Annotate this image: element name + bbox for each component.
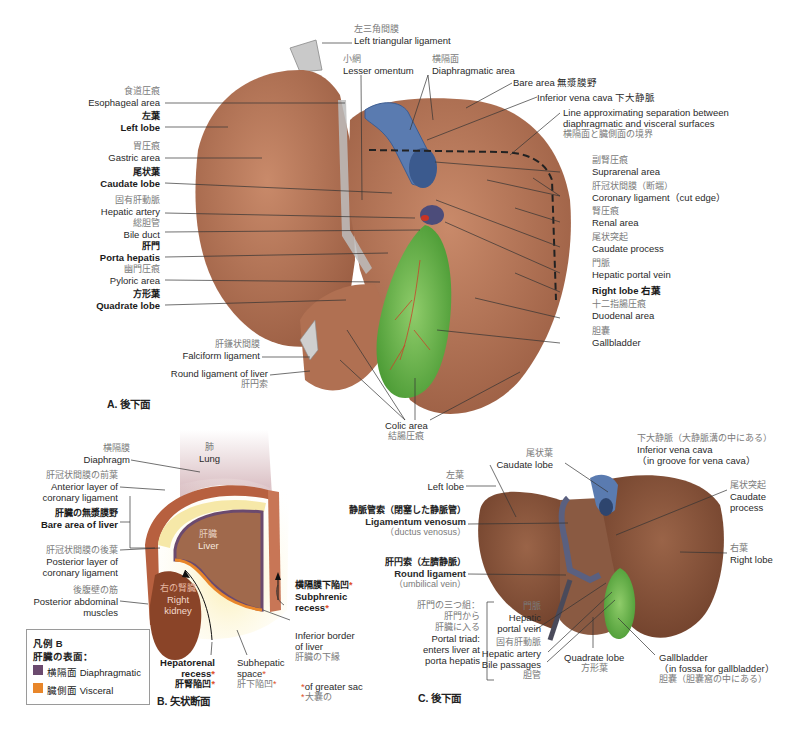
- label-c-hepatic-artery: 固有肝動脈 Hepatic artery: [482, 637, 541, 659]
- label-renal-area: 腎圧痕 Renal area: [592, 206, 638, 228]
- label-c-round-ligament: 肝円索（左臍静脈） Round ligament （umbilical vein…: [385, 557, 466, 590]
- label-gastric-area: 胃圧痕 Gastric area: [108, 141, 160, 163]
- caption-panel-a: A. 後下面: [107, 396, 150, 411]
- label-liver: 肝臓 Liver: [198, 529, 219, 551]
- label-duodenal-area: 十二指腸圧痕 Duodenal area: [592, 299, 654, 321]
- label-c-hepatic-portal-vein: 門脈 Hepatic portal vein: [497, 601, 541, 634]
- label-gallbladder: 胆嚢 Gallbladder: [592, 326, 641, 348]
- label-diaphragm: 横隔膜 Diaphragm: [84, 443, 130, 465]
- label-anterior-layer: 肝冠状間膜の前葉 Anterior layer of coronary liga…: [42, 470, 118, 503]
- liver-anatomy-figure: 左三角間膜 Left triangular ligament 小網 Lesser…: [0, 0, 798, 738]
- label-diaphragmatic-area: 横隔面 Diaphragmatic area: [432, 54, 515, 76]
- label-left-lobe: 左葉 Left lobe: [120, 111, 160, 133]
- label-c-inferior-vena-cava: 下大静脈（大静脈溝の中にある） Inferior vena cava （in g…: [637, 433, 772, 466]
- caption-panel-c: C. 後下面: [418, 690, 461, 705]
- label-colic-area: Colic area 結腸圧痕: [385, 420, 428, 442]
- legend-subtitle: 肝臓の表面：: [33, 649, 93, 663]
- label-hepatic-artery: 固有肝動脈 Hepatic artery: [101, 195, 160, 217]
- label-posterior-layer: 肝冠状間膜の後葉 Posterior layer of coronary lig…: [42, 545, 118, 578]
- label-left-triangular-ligament: 左三角間膜 Left triangular ligament: [354, 24, 451, 46]
- label-inferior-vena-cava: Inferior vena cava 下大静脈: [537, 92, 655, 103]
- label-caudate-process: 尾状突起 Caudate process: [592, 232, 664, 254]
- label-c-gallbladder: Gallbladder （in fossa for gallbladder） 胆…: [659, 652, 775, 685]
- label-c-caudate-process: 尾状突起 Caudate process: [730, 480, 766, 513]
- label-bile-duct: 総胆管 Bile duct: [124, 218, 160, 240]
- legend-item-diaphragmatic: 横隔面 Diaphragmatic: [47, 665, 141, 679]
- legend-swatch-visceral: [33, 683, 43, 693]
- label-esophageal-area: 食道圧痕 Esophageal area: [88, 86, 160, 108]
- label-quadrate-lobe: 方形葉 Quadrate lobe: [96, 289, 160, 311]
- legend-swatch-diaphragmatic: [33, 665, 43, 675]
- label-pyloric-area: 幽門圧痕 Pyloric area: [110, 264, 160, 286]
- label-c-caudate-lobe: 尾状葉 Caudate lobe: [496, 448, 553, 470]
- label-c-left-lobe: 左葉 Left lobe: [428, 470, 464, 492]
- legend-item-visceral: 臓側面 Visceral: [47, 683, 113, 697]
- label-hepatorenal-recess: Hepatorenal recess* 肝腎陥凹*: [160, 657, 215, 690]
- label-c-bile-passages: Bile passages 胆管: [482, 659, 541, 681]
- label-coronary-ligament: 肝冠状間膜（断端） Coronary ligament（cut edge）: [592, 181, 726, 203]
- label-posterior-abdominal-muscles: 後腹壁の筋 Posterior abdominal muscles: [34, 585, 119, 618]
- label-right-lobe: Right lobe 右葉: [592, 285, 661, 296]
- legend-b: 凡例 B 肝臓の表面： 横隔面 Diaphragmatic 臓側面 Viscer…: [26, 629, 150, 705]
- label-caudate-lobe: 尾状葉 Caudate lobe: [100, 167, 160, 189]
- panel-a-liver: [165, 40, 571, 420]
- label-round-ligament-of-liver: Round ligament of liver 肝円索: [171, 368, 268, 390]
- label-star-note: *of greater sac *大嚢の: [301, 681, 363, 703]
- label-suprarenal-area: 副腎圧痕 Suprarenal area: [592, 155, 660, 177]
- label-c-quadrate-lobe: Quadrate lobe 方形葉: [564, 652, 624, 674]
- label-lung: 肺 Lung: [199, 442, 220, 464]
- label-right-kidney: 右の腎臓 Right kidney: [160, 583, 196, 616]
- label-c-right-lobe: 右葉 Right lobe: [730, 543, 773, 565]
- label-porta-hepatis: 肝門 Porta hepatis: [100, 241, 160, 263]
- label-c-portal-triad: 肝門の三つ組： 肝門から 肝臓に入る Portal triad: enters …: [417, 600, 480, 666]
- label-bare-area-of-liver: 肝臓の無漿膜野 Bare area of liver: [41, 508, 118, 530]
- label-subhepatic-space: Subhepatic space* 肝下陥凹*: [237, 657, 285, 690]
- label-subphrenic-recess: 横隔膜下陥凹* Subphrenic recess*: [295, 580, 353, 613]
- label-hepatic-portal-vein: 門脈 Hepatic portal vein: [592, 258, 671, 280]
- label-separation-line: Line approximating separation between di…: [563, 107, 729, 140]
- caption-panel-b: B. 矢状断面: [157, 693, 210, 708]
- label-lesser-omentum: 小網 Lesser omentum: [343, 54, 414, 76]
- label-bare-area: Bare area 無漿膜野: [513, 77, 597, 88]
- label-inferior-border-of-liver: Inferior border of liver 肝臓の下縁: [295, 630, 355, 663]
- label-c-ligamentum-venosum: 静脈管索（閉塞した静脈管） Ligamentum venosum （ductus…: [349, 505, 466, 538]
- legend-title: 凡例 B: [33, 636, 63, 650]
- label-falciform-ligament: 肝鎌状間膜 Falciform ligament: [182, 339, 260, 361]
